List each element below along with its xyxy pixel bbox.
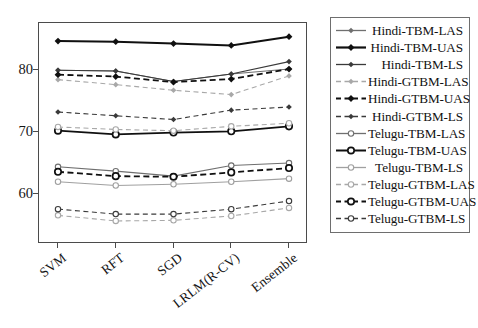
x-tick-mark xyxy=(173,243,174,248)
legend-sample-diamond-icon xyxy=(334,73,368,90)
data-point-marker xyxy=(171,182,176,187)
data-point-marker xyxy=(286,73,292,79)
legend-item[interactable]: Telugu-TBM-LS xyxy=(334,159,465,176)
legend-item[interactable]: Telugu-TBM-LAS xyxy=(334,125,465,142)
data-point-marker xyxy=(170,79,177,86)
legend-label: Telugu-GTBM-UAS xyxy=(368,193,478,210)
data-point-marker xyxy=(113,173,119,179)
data-point-marker xyxy=(348,130,353,135)
legend-label: Hindi-TBM-UAS xyxy=(368,39,465,56)
legend-sample-diamond-icon xyxy=(334,39,368,56)
x-tick-mark xyxy=(288,243,289,248)
series-telugu-gtbm-las xyxy=(55,121,291,134)
x-tick-label: RFT xyxy=(98,250,128,278)
data-point-marker xyxy=(171,117,177,123)
data-point-marker xyxy=(228,107,234,113)
data-point-marker xyxy=(348,198,354,204)
y-tick-mark xyxy=(33,69,38,70)
legend-label: Telugu-GTBM-LAS xyxy=(368,176,477,193)
legend-label: Telugu-TBM-LAS xyxy=(368,125,467,142)
data-point-marker xyxy=(55,124,60,129)
legend-item[interactable]: Telugu-TBM-UAS xyxy=(334,142,465,159)
data-point-marker xyxy=(348,147,354,153)
legend-item[interactable]: Hindi-TBM-UAS xyxy=(334,39,465,56)
legend-item[interactable]: Hindi-TBM-LS xyxy=(334,56,465,73)
data-point-marker xyxy=(55,213,60,218)
legend-item[interactable]: Telugu-GTBM-UAS xyxy=(334,193,465,210)
legend-sample-circle-icon xyxy=(334,176,368,193)
legend-item[interactable]: Hindi-GTBM-LS xyxy=(334,107,465,124)
data-point-marker xyxy=(55,206,60,211)
x-tick-mark xyxy=(57,243,58,248)
data-point-marker xyxy=(228,76,235,83)
legend-sample-circle-icon xyxy=(334,193,368,210)
series-svg xyxy=(39,23,308,244)
data-point-marker xyxy=(286,205,291,210)
data-point-marker xyxy=(55,109,61,115)
legend-item[interactable]: Hindi-GTBM-LAS xyxy=(334,73,465,90)
data-point-marker xyxy=(229,124,234,129)
data-point-marker xyxy=(55,179,60,184)
data-point-marker xyxy=(348,62,354,68)
legend-label: Telugu-GTBM-LS xyxy=(368,210,467,227)
data-point-marker xyxy=(113,113,119,119)
data-point-marker xyxy=(229,163,234,168)
data-point-marker xyxy=(228,92,234,98)
data-point-marker xyxy=(228,169,234,175)
data-point-marker xyxy=(348,28,354,34)
data-point-marker xyxy=(113,82,119,88)
legend-label: Telugu-TBM-UAS xyxy=(368,142,469,159)
legend-sample-circle-icon xyxy=(334,159,368,176)
data-point-marker xyxy=(171,128,176,133)
data-point-marker xyxy=(113,127,118,132)
data-point-marker xyxy=(348,165,353,170)
data-point-marker xyxy=(229,206,234,211)
data-point-marker xyxy=(112,38,119,45)
data-point-marker xyxy=(286,33,293,40)
y-tick-label: 80 xyxy=(19,60,34,77)
x-tick-mark xyxy=(115,243,116,248)
legend-sample-circle-icon xyxy=(334,142,368,159)
data-point-marker xyxy=(286,121,291,126)
data-point-marker xyxy=(55,71,62,78)
series-hindi-tbm-uas xyxy=(55,33,293,49)
y-axis: 807060 xyxy=(0,0,33,328)
series-telugu-gtbm-ls xyxy=(55,198,291,216)
plot-area xyxy=(38,22,307,243)
series-hindi-gtbm-ls xyxy=(55,104,292,122)
data-point-marker xyxy=(286,59,292,65)
data-point-marker xyxy=(229,213,234,218)
y-tick-mark xyxy=(33,193,38,194)
data-point-marker xyxy=(286,66,293,73)
data-point-marker xyxy=(286,104,292,110)
legend-sample-circle-icon xyxy=(334,125,368,142)
legend-sample-diamond-icon xyxy=(334,108,368,125)
y-tick-label: 60 xyxy=(19,185,34,202)
data-point-marker xyxy=(286,165,292,171)
legend-label: Hindi-TBM-LAS xyxy=(368,22,465,39)
data-point-marker xyxy=(348,216,353,221)
legend-item[interactable]: Telugu-GTBM-LS xyxy=(334,210,465,227)
legend-item[interactable]: Hindi-TBM-LAS xyxy=(334,22,465,39)
legend-item[interactable]: Telugu-GTBM-LAS xyxy=(334,176,465,193)
data-point-marker xyxy=(170,174,176,180)
data-point-marker xyxy=(112,73,119,80)
legend-label: Hindi-GTBM-UAS xyxy=(368,90,472,107)
y-tick-mark xyxy=(33,131,38,132)
legend-sample-diamond-icon xyxy=(334,90,368,107)
data-point-marker xyxy=(171,218,176,223)
data-point-marker xyxy=(170,40,177,47)
data-point-marker xyxy=(171,87,177,93)
x-tick-label: SGD xyxy=(154,250,185,279)
legend-sample-diamond-icon xyxy=(334,56,368,73)
legend-sample-diamond-icon xyxy=(334,22,368,39)
legend-item[interactable]: Hindi-GTBM-UAS xyxy=(334,90,465,107)
x-tick-label: SVM xyxy=(37,250,70,281)
legend-label: Hindi-GTBM-LAS xyxy=(368,73,470,90)
x-tick-mark xyxy=(230,243,231,248)
x-tick-label: Ensemble xyxy=(248,250,300,296)
data-point-marker xyxy=(55,38,62,45)
data-point-marker xyxy=(348,79,354,85)
data-point-marker xyxy=(348,44,355,51)
